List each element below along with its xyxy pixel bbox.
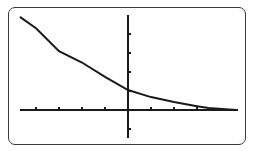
axes (20, 15, 238, 138)
graph-plot (0, 0, 254, 151)
